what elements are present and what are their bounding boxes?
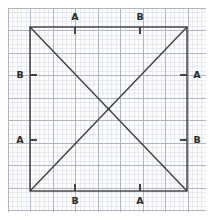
figure-root: ABBAABBA [0,0,214,220]
center-point [107,108,110,111]
label-bottom-a: A [136,195,144,206]
label-left-a: A [16,134,24,145]
label-right-b: B [193,134,200,145]
label-bottom-b: B [71,195,78,206]
label-right-a: A [193,69,201,80]
label-left-b: B [16,69,23,80]
label-top-a: A [71,11,79,22]
graph-paper-figure: ABBAABBA [0,0,214,220]
label-top-b: B [136,11,143,22]
